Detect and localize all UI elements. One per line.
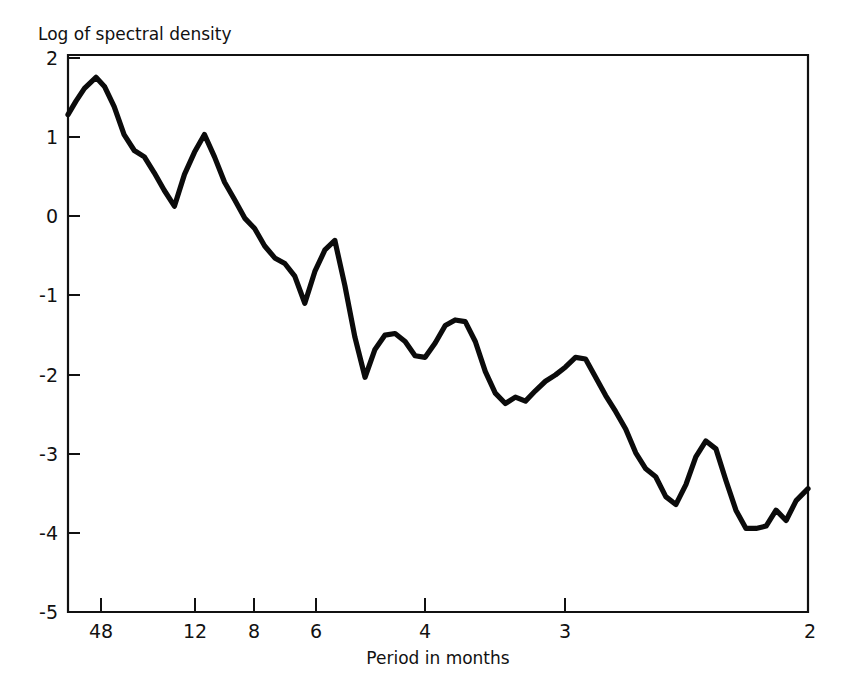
x-tick-label: 3 — [559, 620, 571, 642]
spectral-density-series — [68, 77, 808, 528]
x-tick-label: 6 — [310, 620, 322, 642]
x-tick-label: 12 — [183, 620, 207, 642]
y-tick-label: 1 — [46, 126, 58, 148]
x-tick-label: 4 — [419, 620, 431, 642]
y-tick-label: -5 — [39, 601, 58, 623]
chart-figure: Log of spectral density 2 1 0 -1 -2 -3 -… — [0, 0, 847, 679]
x-axis-tick-labels: 48 12 8 6 4 3 2 — [89, 620, 816, 642]
y-axis-ticks — [68, 58, 80, 612]
y-tick-label: 0 — [46, 205, 58, 227]
x-axis-title: Period in months — [366, 648, 509, 668]
y-tick-label: -2 — [39, 364, 58, 386]
x-tick-label: 8 — [248, 620, 260, 642]
y-tick-label: 2 — [46, 47, 58, 69]
y-tick-label: -3 — [39, 443, 58, 465]
x-tick-label: 2 — [804, 620, 816, 642]
spectral-density-line-chart: Log of spectral density 2 1 0 -1 -2 -3 -… — [0, 0, 847, 679]
y-axis-tick-labels: 2 1 0 -1 -2 -3 -4 -5 — [39, 47, 58, 623]
x-tick-label: 48 — [89, 620, 113, 642]
y-tick-label: -1 — [39, 284, 58, 306]
y-tick-label: -4 — [39, 522, 58, 544]
x-axis-ticks — [101, 598, 808, 612]
chart-title: Log of spectral density — [38, 24, 232, 44]
